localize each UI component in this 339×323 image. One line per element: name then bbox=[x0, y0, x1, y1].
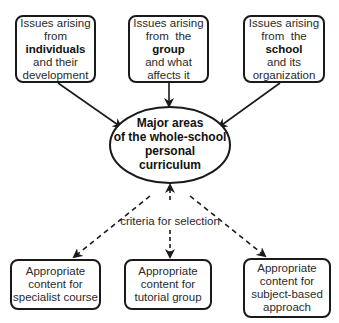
box-text: approach bbox=[263, 301, 311, 314]
box-text: Appropriate bbox=[257, 262, 316, 275]
box-text: Issues arising bbox=[249, 17, 319, 30]
box-text: Issues arising bbox=[133, 17, 203, 30]
output-box-tutorial: Appropriate content for tutorial group bbox=[124, 259, 212, 310]
box-text: subject-based bbox=[251, 288, 323, 301]
box-text: and their bbox=[33, 56, 78, 69]
box-text: Issues arising bbox=[20, 17, 90, 30]
box-text: from the bbox=[146, 30, 191, 43]
criteria-label: criteria for selection bbox=[100, 215, 240, 227]
box-keyword: group bbox=[152, 43, 185, 56]
box-text: development bbox=[23, 69, 89, 82]
output-box-specialist: Appropriate content for specialist cours… bbox=[10, 259, 101, 310]
center-text: Major areas bbox=[110, 116, 230, 130]
box-text: specialist course bbox=[13, 291, 98, 304]
box-text: Appropriate bbox=[26, 265, 85, 278]
box-text: tutorial group bbox=[134, 291, 201, 304]
box-text: content for bbox=[141, 278, 195, 291]
center-label: Major areas of the whole-school personal… bbox=[110, 116, 230, 172]
box-text: organization bbox=[253, 69, 316, 82]
box-text: content for bbox=[28, 278, 82, 291]
box-text: from bbox=[44, 30, 67, 43]
source-box-group: Issues arising from the group and what a… bbox=[128, 15, 209, 83]
source-box-school: Issues arising from the school and its o… bbox=[243, 15, 325, 83]
box-text: from the bbox=[261, 30, 306, 43]
diagram-canvas: Issues arising from individuals and thei… bbox=[0, 0, 339, 323]
box-text: content for bbox=[260, 275, 314, 288]
center-text: personal bbox=[110, 144, 230, 158]
output-box-subject: Appropriate content for subject-based ap… bbox=[243, 258, 331, 318]
center-text: curriculum bbox=[110, 158, 230, 172]
box-text: affects it bbox=[147, 69, 190, 82]
box-keyword: school bbox=[265, 43, 302, 56]
center-text: of the whole-school bbox=[110, 130, 230, 144]
box-text: and its bbox=[267, 56, 301, 69]
source-box-individuals: Issues arising from individuals and thei… bbox=[15, 15, 96, 83]
box-text: and what bbox=[145, 56, 192, 69]
box-text: Appropriate bbox=[138, 265, 197, 278]
box-keyword: individuals bbox=[25, 43, 85, 56]
